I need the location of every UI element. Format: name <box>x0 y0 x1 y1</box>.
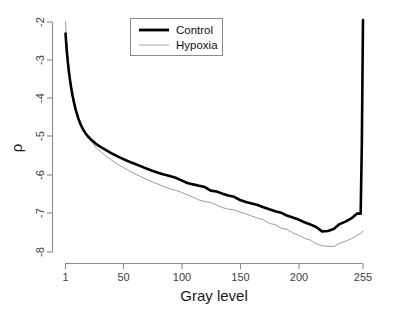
line-chart: -2 -3 -4 -5 -6 -7 -8 ρ 1 <box>0 0 398 309</box>
x-tick-label: 1 <box>62 271 68 283</box>
x-tick-label: 200 <box>290 271 308 283</box>
y-tick-label: -2 <box>34 17 46 27</box>
y-tick-label: -7 <box>34 208 46 218</box>
x-tick-label: 100 <box>173 271 191 283</box>
y-tick-label: -8 <box>34 247 46 257</box>
legend-label-hypoxia: Hypoxia <box>176 39 218 51</box>
chart-figure: -2 -3 -4 -5 -6 -7 -8 ρ 1 <box>0 0 398 309</box>
y-tick-label: -4 <box>34 93 46 103</box>
y-axis-title: ρ <box>8 144 25 153</box>
x-tick-label: 255 <box>354 271 372 283</box>
x-tick-label: 50 <box>117 271 129 283</box>
y-tick-label: -5 <box>34 131 46 141</box>
x-tick-label: 150 <box>231 271 249 283</box>
y-tick-label: -3 <box>34 55 46 65</box>
chart-legend: Control Hypoxia <box>131 19 223 56</box>
y-tick-label: -6 <box>34 170 46 180</box>
x-axis-title: Gray level <box>180 287 248 304</box>
legend-label-control: Control <box>176 24 213 36</box>
